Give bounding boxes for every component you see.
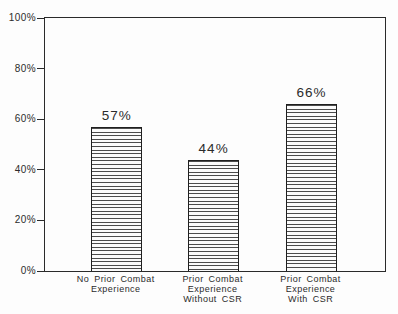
y-axis: 0%20%40%60%80%100% xyxy=(0,17,38,270)
bar xyxy=(286,104,337,271)
y-tick-label: 20% xyxy=(15,214,36,225)
bar-value-label: 66% xyxy=(297,85,327,100)
bar xyxy=(91,127,142,271)
bar-value-label: 57% xyxy=(102,108,132,123)
y-tick-mark xyxy=(37,271,44,272)
y-tick-mark xyxy=(37,220,44,221)
x-category-label: No Prior Combat Experience xyxy=(77,274,155,294)
bar xyxy=(188,160,239,271)
x-axis-labels: No Prior Combat ExperiencePrior Combat E… xyxy=(44,274,384,312)
y-tick-label: 100% xyxy=(9,12,36,23)
y-tick-label: 0% xyxy=(21,265,36,276)
y-tick-mark xyxy=(37,68,44,69)
x-category-label: Prior Combat Experience With CSR xyxy=(280,274,340,304)
y-tick-label: 60% xyxy=(15,113,36,124)
plot-area: 57%44%66% xyxy=(44,17,386,272)
bar-value-label: 44% xyxy=(199,141,229,156)
x-category-label: Prior Combat Experience Without CSR xyxy=(182,274,242,304)
y-tick-mark xyxy=(37,18,44,19)
y-tick-label: 80% xyxy=(15,62,36,73)
y-tick-mark xyxy=(37,119,44,120)
y-tick-mark xyxy=(37,169,44,170)
bar-chart-figure: 0%20%40%60%80%100% 57%44%66% No Prior Co… xyxy=(0,0,398,314)
y-tick-label: 40% xyxy=(15,163,36,174)
